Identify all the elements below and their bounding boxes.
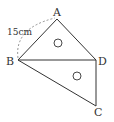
geometry-diagram: A B C D 15cm xyxy=(0,0,114,122)
measurement-label: 15cm xyxy=(7,27,32,37)
point-label-D: D xyxy=(98,55,107,68)
segment-AD xyxy=(57,19,96,60)
point-label-A: A xyxy=(52,6,62,19)
segment-AB xyxy=(18,19,57,60)
point-label-B: B xyxy=(6,55,14,68)
point-label-C: C xyxy=(94,106,102,119)
mark-circle-BCD xyxy=(73,72,81,80)
measurement-arc xyxy=(18,18,55,58)
segment-BC xyxy=(18,60,96,106)
mark-circle-ABD xyxy=(54,39,62,47)
